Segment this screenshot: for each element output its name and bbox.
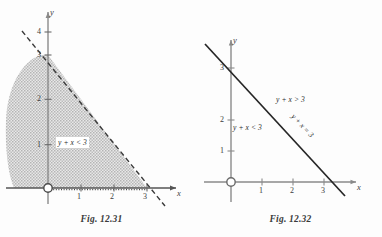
origin-open-circle-left [44,184,52,192]
x-tick-label-3-right: 3 [321,186,325,195]
figure-12-32: 1 2 3 1 2 3 x y y + x > 3 y + x < 3 y + … [191,0,382,237]
shaded-region-left [6,55,147,188]
x-axis-label-left: x [177,188,181,198]
x-tick-label-1-right: 1 [259,186,263,195]
plot-area-left [0,0,191,212]
y-tick-label-4-left: 4 [37,27,41,36]
y-tick-label-1-right: 1 [220,146,224,155]
label-greater-than-right: y + x > 3 [276,95,305,104]
x-tick-label-1-left: 1 [77,192,81,201]
x-axis-label-right: x [357,182,361,192]
y-tick-label-1-left: 1 [37,140,41,149]
y-tick-label-2-right: 2 [220,115,224,124]
x-tick-label-2-left: 2 [110,192,114,201]
x-tick-label-2-right: 2 [290,186,294,195]
figure-page: 1 2 3 1 2 3 4 x y y + x < 3 Fig. 12.31 [0,0,382,237]
x-axis-arrow-right [351,180,357,184]
plot-area-right [191,0,382,212]
figure-12-31: 1 2 3 1 2 3 4 x y y + x < 3 Fig. 12.31 [0,0,191,237]
y-axis-label-left: y [50,7,54,17]
x-tick-label-3-left: 3 [143,192,147,201]
label-less-than-right: y + x < 3 [233,123,262,132]
region-inequality-label-left: y + x < 3 [56,137,89,148]
x-axis-arrow-left [170,186,176,191]
boundary-line-right [205,44,345,196]
y-tick-label-3-right: 3 [220,63,224,72]
figure-caption-right: Fig. 12.32 [195,214,382,224]
origin-open-circle-right [227,178,235,186]
y-tick-label-3-left: 3 [37,50,41,59]
y-tick-label-2-left: 2 [37,94,41,103]
y-axis-label-right: y [233,35,237,45]
figure-caption-left: Fig. 12.31 [6,214,197,224]
